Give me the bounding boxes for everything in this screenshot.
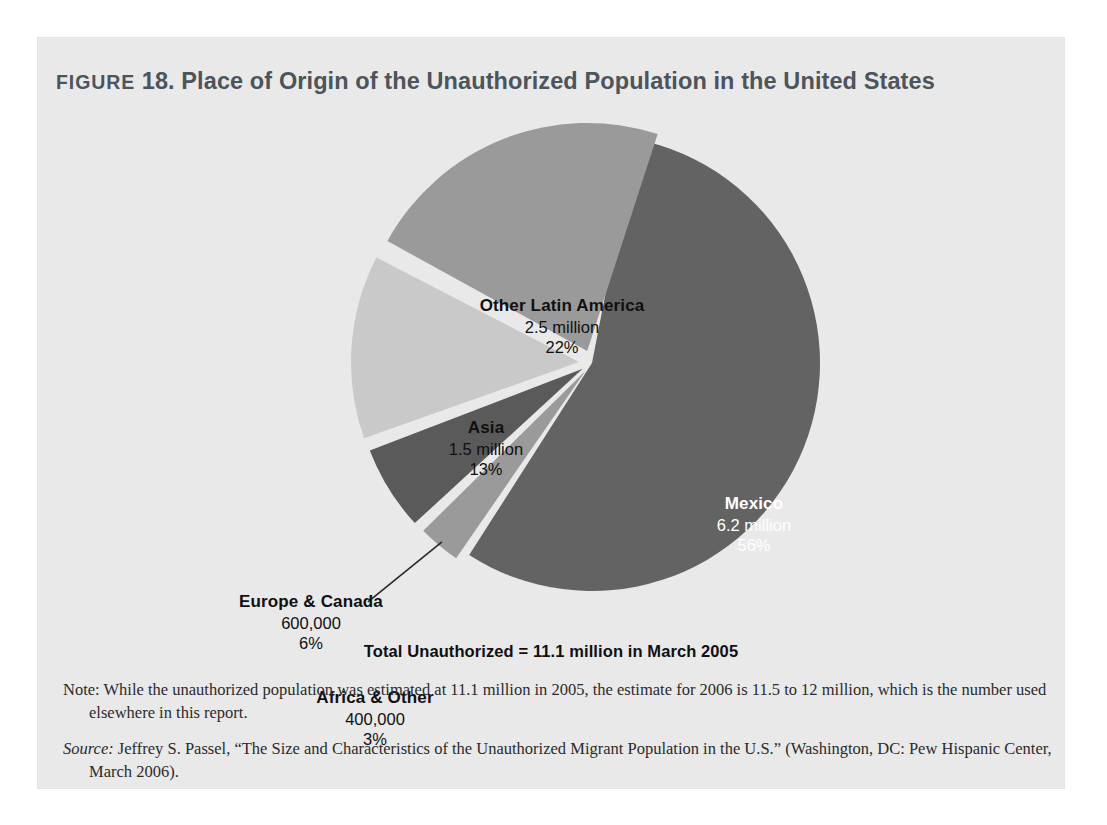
- pie-chart: Other Latin America 2.5 million 22% Asia…: [38, 110, 1064, 670]
- footnote-note: Note: While the unauthorized population …: [63, 678, 1063, 725]
- pie-label-asia: Asia 1.5 million 13%: [406, 418, 566, 479]
- pie-label-name: Other Latin America: [432, 296, 692, 317]
- pie-chart-svg: [38, 110, 1064, 670]
- pie-label-percent: 13%: [406, 459, 566, 479]
- footnote-note-lead: Note:: [63, 680, 100, 699]
- pie-label-value: 600,000: [186, 613, 436, 633]
- page-title: FIGURE 18. Place of Origin of the Unauth…: [56, 68, 1016, 95]
- pie-label-value: 2.5 million: [432, 317, 692, 337]
- figure-number: 18.: [142, 68, 175, 94]
- figure-title-text: Place of Origin of the Unauthorized Popu…: [181, 68, 935, 94]
- footnote-source-lead: Source:: [63, 739, 114, 758]
- pie-label-percent: 56%: [654, 535, 854, 555]
- figure-number-spacer: [135, 68, 142, 94]
- footnote-note-text: While the unauthorized population was es…: [89, 680, 1046, 722]
- footnote-source: Source: Jeffrey S. Passel, “The Size and…: [63, 737, 1063, 784]
- pie-label-name: Mexico: [654, 494, 854, 515]
- pie-label-name: Asia: [406, 418, 566, 439]
- footnote-source-text: Jeffrey S. Passel, “The Size and Charact…: [89, 739, 1052, 781]
- pie-label-other-latin-america: Other Latin America 2.5 million 22%: [432, 296, 692, 357]
- pie-label-percent: 22%: [432, 337, 692, 357]
- pie-label-name: Europe & Canada: [186, 592, 436, 613]
- figure-label-word: FIGURE: [56, 71, 135, 93]
- figure-root: FIGURE 18. Place of Origin of the Unauth…: [0, 0, 1107, 825]
- footnotes: Note: While the unauthorized population …: [63, 678, 1063, 796]
- pie-label-value: 6.2 million: [654, 515, 854, 535]
- pie-label-mexico: Mexico 6.2 million 56%: [654, 494, 854, 555]
- total-caption: Total Unauthorized = 11.1 million in Mar…: [38, 642, 1064, 661]
- pie-label-value: 1.5 million: [406, 439, 566, 459]
